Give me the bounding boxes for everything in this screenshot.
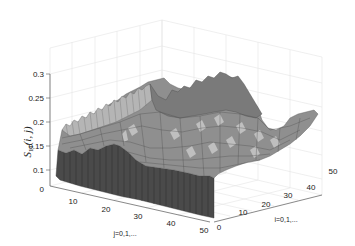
z-tick: 0.25	[28, 94, 44, 103]
x-tick: 20	[102, 205, 111, 214]
x-tick: 40	[167, 219, 176, 228]
y-tick: 30	[284, 191, 293, 200]
y-tick: 50	[329, 167, 338, 176]
z-tick: 0.3	[33, 70, 45, 79]
z-tick: 0.1	[33, 166, 45, 175]
z-tick: 0	[40, 185, 45, 194]
x-axis-label: j=0,1,...	[112, 230, 136, 238]
z-tick: 0.2	[33, 118, 45, 127]
y-tick: 0	[217, 223, 222, 232]
x-tick: 30	[134, 212, 143, 221]
y-tick: 20	[262, 200, 271, 209]
y-tick: 40	[307, 183, 316, 192]
x-tick: 50	[200, 226, 209, 235]
x-tick: 10	[69, 197, 78, 206]
surface-plot: 0.3 0.25 0.2 0.15 0.1 0 S11(i, j) 10 20 …	[0, 0, 355, 246]
y-axis-label: i=0,1,...	[274, 216, 297, 223]
y-tick: 10	[239, 208, 248, 217]
z-axis-label: S11(i, j)	[21, 126, 35, 158]
